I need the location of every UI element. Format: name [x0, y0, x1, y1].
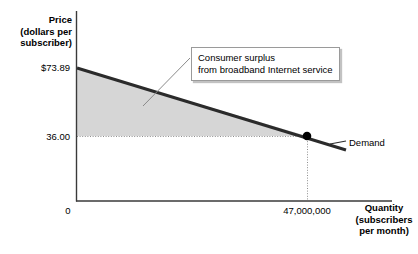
demand-label-leader-line [330, 141, 346, 144]
equilibrium-point-marker [303, 132, 312, 141]
y-axis-tick-label-36-00: 36.00 [8, 131, 70, 142]
y-axis-title: Price (dollars per subscriber) [4, 14, 72, 49]
x-axis-title: Quantity (subscribers per month) [352, 202, 416, 237]
consumer-surplus-chart: Price (dollars per subscriber) Quantity … [0, 0, 418, 254]
y-axis-tick-label-73-89: $73.89 [8, 62, 70, 73]
demand-curve-label: Demand [349, 137, 385, 148]
consumer-surplus-callout: Consumer surplus from broadband Internet… [191, 47, 340, 81]
x-axis-tick-label-zero: 0 [60, 205, 76, 216]
x-axis-tick-label-47000000: 47,000,000 [262, 205, 352, 216]
